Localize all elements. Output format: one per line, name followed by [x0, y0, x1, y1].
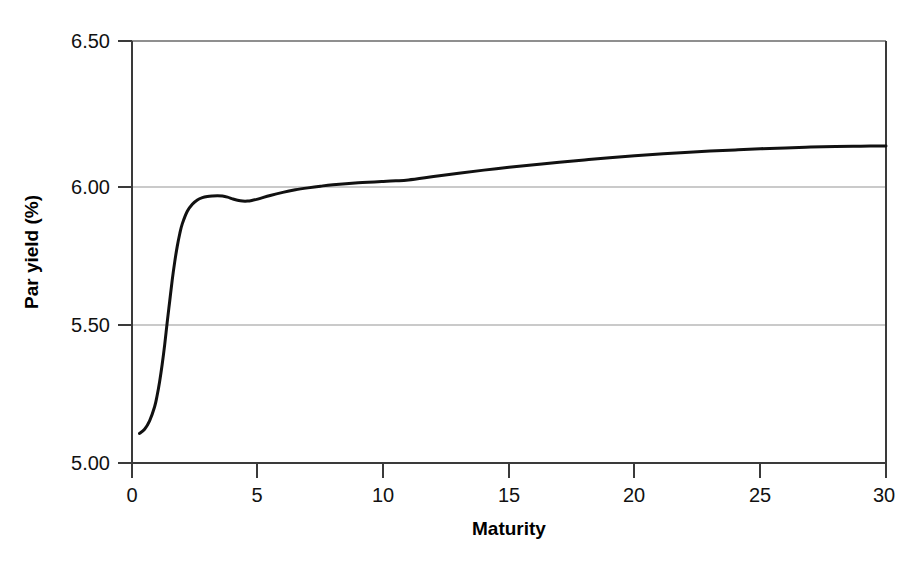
y-axis-title: Par yield (%) [21, 195, 42, 309]
x-tick-label-10: 10 [372, 484, 394, 506]
x-axis-title: Maturity [472, 518, 546, 539]
x-tick-label-0: 0 [126, 484, 137, 506]
x-tick-label-5: 5 [251, 484, 262, 506]
y-tick-label-5-50: 5.50 [71, 314, 110, 336]
chart-figure: 6.50 6.00 5.50 5.00 0 5 10 15 20 25 30 M… [0, 0, 919, 564]
x-tick-label-20: 20 [623, 484, 645, 506]
chart-background [0, 0, 919, 564]
par-yield-line-chart: 6.50 6.00 5.50 5.00 0 5 10 15 20 25 30 M… [0, 0, 919, 564]
x-tick-label-25: 25 [749, 484, 771, 506]
y-tick-label-6-00: 6.00 [71, 176, 110, 198]
x-tick-label-30: 30 [873, 484, 895, 506]
y-tick-label-6-50: 6.50 [71, 30, 110, 52]
x-tick-label-15: 15 [498, 484, 520, 506]
y-tick-label-5-00: 5.00 [71, 452, 110, 474]
